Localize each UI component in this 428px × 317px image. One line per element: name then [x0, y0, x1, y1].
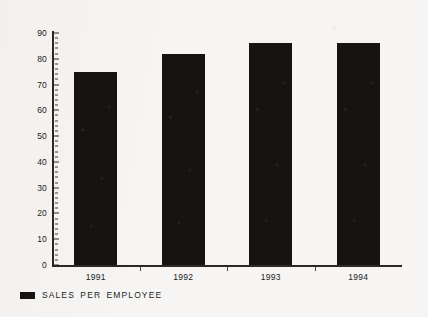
y-tick-major [54, 110, 59, 111]
x-tick-minor [315, 267, 316, 271]
y-tick-minor [55, 69, 58, 70]
legend-swatch-icon [20, 292, 35, 299]
y-tick-minor [55, 79, 58, 80]
y-tick-major [54, 58, 59, 59]
legend-label-sales-per-employee: SALES PER EMPLOYEE [42, 290, 162, 300]
y-tick-minor [55, 141, 58, 142]
x-tick-label-1991: 1991 [86, 272, 106, 282]
y-tick-label: 60 [37, 105, 47, 115]
y-tick-minor [55, 228, 58, 229]
x-tick-label-1993: 1993 [261, 272, 281, 282]
bar-1994 [337, 43, 380, 265]
chart-legend: SALES PER EMPLOYEE [20, 290, 162, 300]
y-tick-minor [55, 120, 58, 121]
chart-page: 0102030405060708090 1991199219931994 SAL… [0, 0, 428, 317]
y-tick-label: 80 [37, 54, 47, 64]
y-tick-label: 90 [37, 28, 47, 38]
y-tick-major [54, 136, 59, 137]
y-tick-label: 10 [37, 234, 47, 244]
bar-1992 [162, 54, 205, 265]
y-tick-minor [55, 167, 58, 168]
y-tick-minor [55, 172, 58, 173]
y-tick-minor [55, 38, 58, 39]
y-tick-label: 30 [37, 183, 47, 193]
x-tick-label-1994: 1994 [348, 272, 368, 282]
y-tick-minor [55, 208, 58, 209]
y-tick-minor [55, 100, 58, 101]
x-tick-minor [227, 267, 228, 271]
y-tick-major [54, 213, 59, 214]
y-tick-minor [55, 125, 58, 126]
y-tick-minor [55, 182, 58, 183]
y-tick-label: 20 [37, 208, 47, 218]
y-tick-minor [55, 218, 58, 219]
bar-1991 [74, 72, 117, 265]
y-tick-minor [55, 94, 58, 95]
x-tick-label-1992: 1992 [173, 272, 193, 282]
x-tick-minor [140, 267, 141, 271]
plot-area: 0102030405060708090 1991199219931994 [52, 31, 402, 267]
y-tick-minor [55, 48, 58, 49]
y-tick-major [54, 84, 59, 85]
y-tick-minor [55, 197, 58, 198]
y-tick-minor [55, 234, 58, 235]
y-tick-minor [55, 130, 58, 131]
y-tick-major [54, 265, 59, 266]
y-tick-minor [55, 146, 58, 147]
y-tick-minor [55, 203, 58, 204]
y-axis-line [52, 31, 54, 267]
y-tick-label: 0 [42, 260, 47, 270]
y-tick-label: 40 [37, 157, 47, 167]
y-tick-minor [55, 115, 58, 116]
bar-1993 [249, 43, 292, 265]
y-tick-minor [55, 223, 58, 224]
y-tick-minor [55, 74, 58, 75]
y-tick-minor [55, 249, 58, 250]
y-tick-minor [55, 254, 58, 255]
y-tick-minor [55, 156, 58, 157]
y-tick-minor [55, 63, 58, 64]
y-tick-label: 50 [37, 131, 47, 141]
y-tick-minor [55, 105, 58, 106]
y-tick-minor [55, 244, 58, 245]
y-tick-label: 70 [37, 80, 47, 90]
y-tick-major [54, 239, 59, 240]
y-tick-major [54, 161, 59, 162]
y-tick-minor [55, 151, 58, 152]
y-tick-major [54, 187, 59, 188]
y-tick-minor [55, 53, 58, 54]
y-tick-minor [55, 89, 58, 90]
y-tick-minor [55, 192, 58, 193]
y-tick-major [54, 33, 59, 34]
y-tick-minor [55, 259, 58, 260]
y-tick-minor [55, 177, 58, 178]
y-tick-minor [55, 43, 58, 44]
